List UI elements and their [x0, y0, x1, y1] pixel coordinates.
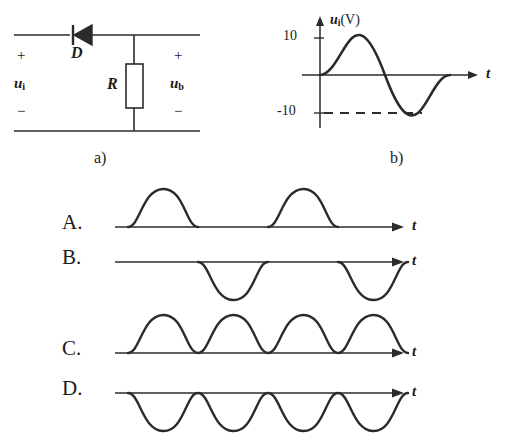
option-d-axis-label: t [412, 384, 416, 399]
caption-b: b) [390, 150, 403, 166]
answer-options: A. B. C. D. t t t t [0, 176, 510, 444]
minus-sign-left: − [17, 104, 25, 119]
option-D-waveform [115, 389, 408, 432]
option-letter-d: D. [62, 378, 82, 399]
option-letter-b: B. [62, 247, 81, 268]
diode-icon [73, 25, 92, 45]
input-voltage-label: ui [14, 76, 25, 92]
graph-b-svg [250, 0, 510, 175]
caption-a: a) [94, 150, 106, 166]
option-c-axis-label: t [412, 344, 416, 359]
y-axis-arrow [316, 16, 324, 26]
circuit-diagram: + − + − ui ub D R a) [0, 0, 250, 175]
option-b-axis-label: t [412, 253, 416, 268]
x-axis-arrow [468, 71, 478, 79]
plus-sign-right: + [174, 48, 182, 63]
plus-sign-left: + [17, 48, 25, 63]
resistor-icon [126, 64, 143, 108]
option-C-waveform [115, 315, 408, 358]
option-a-axis-label: t [412, 218, 416, 233]
option-letter-a: A. [62, 212, 82, 233]
circuit-svg [0, 0, 250, 175]
y-tick-label-negative: -10 [277, 104, 296, 118]
y-axis-label: ui(V) [330, 13, 360, 29]
option-A-waveform [115, 189, 404, 232]
y-tick-label-positive: 10 [283, 29, 297, 43]
x-axis-label: t [486, 66, 490, 81]
option-B-waveform [115, 258, 408, 301]
resistor-label: R [107, 76, 118, 92]
diode-label: D [71, 45, 83, 61]
option-letter-c: C. [62, 338, 81, 359]
output-voltage-label: ub [170, 76, 184, 92]
minus-sign-right: − [174, 104, 182, 119]
input-waveform-graph: 10 -10 ui(V) t b) [250, 0, 510, 175]
